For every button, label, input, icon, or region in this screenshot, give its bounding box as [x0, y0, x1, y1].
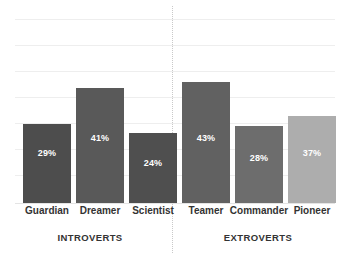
bar-value-label: 29%	[23, 148, 71, 158]
bar-value-label: 43%	[182, 133, 230, 143]
bar-chart: 29%41%24%43%28%37% GuardianDreamerScient…	[0, 0, 349, 260]
bar-value-label: 41%	[76, 133, 124, 143]
bar-value-label: 28%	[235, 153, 283, 163]
group-axis-labels: INTROVERTSEXTROVERTS	[0, 232, 349, 250]
bar-guardian[interactable]: 29%	[23, 124, 71, 203]
bar-teamer[interactable]: 43%	[182, 82, 230, 203]
bar-pioneer[interactable]: 37%	[288, 116, 336, 203]
category-axis-labels: GuardianDreamerScientistTeamerCommanderP…	[0, 205, 349, 223]
bars-container: 29%41%24%43%28%37%	[0, 0, 349, 204]
group-label-introverts: INTROVERTS	[30, 232, 150, 243]
bar-value-label: 37%	[288, 148, 336, 158]
bar-scientist[interactable]: 24%	[129, 133, 177, 203]
bar-dreamer[interactable]: 41%	[76, 88, 124, 203]
group-label-extroverts: EXTROVERTS	[198, 232, 318, 243]
bar-value-label: 24%	[129, 158, 177, 168]
bar-commander[interactable]: 28%	[235, 126, 283, 203]
category-label-pioneer: Pioneer	[279, 205, 345, 216]
